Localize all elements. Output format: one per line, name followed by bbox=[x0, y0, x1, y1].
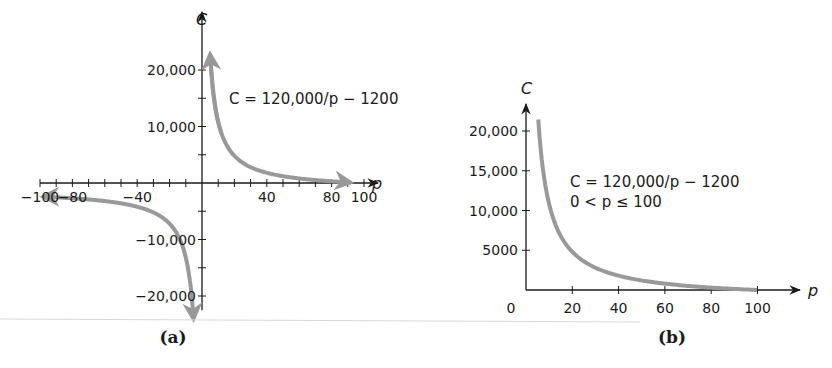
chart-b-y-axis-label: C bbox=[521, 79, 533, 98]
chart-b-y-tick-label: 20,000 bbox=[469, 123, 518, 139]
chart-a: −100−80−40408010020,00010,000−10,000−20,… bbox=[21, 10, 399, 319]
chart-b-equation-label: C = 120,000/p − 1200 bbox=[570, 173, 739, 191]
chart-b-y-tick-label: 10,000 bbox=[469, 203, 518, 219]
chart-b-x-tick-label: 60 bbox=[656, 300, 674, 316]
chart-b-y-tick-label: 15,000 bbox=[469, 163, 518, 179]
chart-b-caption: (b) bbox=[658, 327, 686, 347]
chart-b-x-tick-label: 100 bbox=[744, 300, 771, 316]
chart-a-y-tick-label: −20,000 bbox=[135, 288, 196, 304]
chart-b-x-tick-label: 0 bbox=[507, 300, 516, 316]
chart-a-x-axis-label: p bbox=[371, 174, 382, 193]
chart-b-y-tick-label: 5000 bbox=[482, 242, 518, 258]
chart-a-y-tick-label: −10,000 bbox=[135, 232, 196, 248]
chart-a-equation-label: C = 120,000/p − 1200 bbox=[229, 90, 398, 108]
chart-b-domain-label: 0 < p ≤ 100 bbox=[570, 193, 662, 211]
chart-b-x-tick-label: 80 bbox=[702, 300, 720, 316]
chart-a-caption: (a) bbox=[159, 327, 186, 347]
chart-a-curve-positive-arrow bbox=[210, 54, 221, 133]
chart-b: 02040608010020,00015,00010,0005000 C p C… bbox=[469, 79, 818, 316]
chart-b-x-axis-label: p bbox=[807, 281, 818, 300]
chart-b-x-tick-label: 40 bbox=[610, 300, 628, 316]
chart-a-x-tick-label: −100 bbox=[21, 189, 59, 205]
chart-a-y-tick-label: 20,000 bbox=[147, 62, 196, 78]
chart-a-x-tick-label: 40 bbox=[258, 189, 276, 205]
chart-a-curve-positive bbox=[210, 57, 350, 183]
chart-a-x-tick-label: −40 bbox=[122, 189, 152, 205]
chart-a-y-axis-label: C bbox=[196, 10, 208, 29]
chart-a-y-tick-label: 10,000 bbox=[147, 119, 196, 135]
chart-a-x-tick-label: 80 bbox=[323, 189, 341, 205]
chart-b-x-tick-label: 20 bbox=[563, 300, 581, 316]
chart-a-x-tick-label: −80 bbox=[58, 189, 88, 205]
figure: −100−80−40408010020,00010,000−10,000−20,… bbox=[0, 0, 832, 368]
divider-line bbox=[0, 319, 640, 322]
